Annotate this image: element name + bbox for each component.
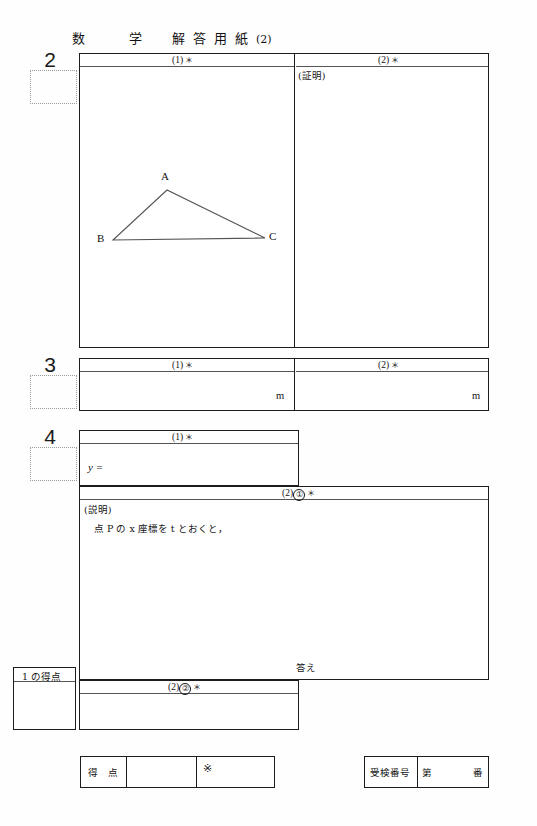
sub-number-icon: ① — [293, 489, 305, 501]
problem-2-1-caption-rule — [80, 66, 294, 67]
problem-1-score-entry[interactable] — [14, 682, 75, 729]
problem-number-4: 4 — [30, 425, 70, 449]
problem-2-section-1-caption: (1) ＊ — [172, 54, 193, 65]
problem-3-2-caption-rule — [296, 371, 488, 372]
official-mark-icon: ※ — [203, 762, 212, 775]
required-mark-icon: ＊ — [391, 56, 399, 65]
triangle-svg — [95, 170, 295, 260]
problem-3-section-1-caption: (1) ＊ — [172, 359, 193, 370]
problem-4-1-caption-rule — [80, 443, 298, 444]
problem-3-1-unit: m — [276, 390, 284, 401]
proof-label: (証明) — [298, 68, 325, 82]
sheet-number: (2) — [256, 33, 272, 46]
problem-3-1-caption-rule — [80, 371, 294, 372]
problem-4-section-2-2-caption: (2)② ＊ — [168, 681, 201, 695]
page-title: 数学解答用紙(2) — [72, 28, 272, 47]
vertex-label-a: A — [161, 170, 169, 182]
problem-number-3: 3 — [30, 353, 70, 377]
total-score-divider-2 — [196, 757, 197, 787]
required-mark-icon: ＊ — [185, 361, 193, 370]
subject-char-1: 数 — [72, 31, 85, 46]
total-score-entry[interactable] — [128, 757, 194, 787]
problem-2-2-caption-rule — [296, 66, 488, 67]
doc-char-3: 用 — [214, 31, 227, 46]
required-mark-icon: ＊ — [185, 433, 193, 442]
problem-3-column-divider — [294, 359, 295, 410]
problem-4-section-2-1-caption: (2)① ＊ — [282, 487, 315, 501]
exam-number-entry[interactable] — [432, 757, 472, 787]
problem-4-section-1-caption: (1) ＊ — [172, 431, 193, 442]
score-entry-box-problem-3[interactable] — [30, 375, 77, 409]
problem-1-score-label: 1 の得点 — [22, 669, 61, 683]
exam-number-label: 受検番号 — [370, 765, 410, 779]
exam-number-suffix: 番 — [473, 765, 483, 779]
required-mark-icon: ＊ — [391, 361, 399, 370]
score-entry-box-problem-4[interactable] — [30, 447, 77, 481]
problem-2-section-2-caption: (2) ＊ — [378, 54, 399, 65]
subject-char-2: 学 — [129, 31, 142, 46]
exam-number-prefix: 第 — [422, 765, 432, 779]
problem-3-2-unit: m — [472, 390, 480, 401]
doc-char-2: 答 — [193, 31, 206, 46]
explanation-starter-text: 点 P の x 座標を t とおくと， — [94, 521, 228, 535]
required-mark-icon: ＊ — [193, 683, 201, 692]
vertex-label-b: B — [97, 232, 104, 244]
triangle-diagram: A B C — [95, 170, 295, 260]
answer-sheet-page: 数学解答用紙(2) 2 (1) ＊ (2) ＊ (証明) A B C 3 (1)… — [0, 0, 537, 826]
required-mark-icon: ＊ — [307, 489, 315, 498]
answer-label: 答え — [296, 660, 316, 674]
problem-4-section-2-1-answer-area — [79, 486, 489, 680]
exam-number-divider — [417, 757, 418, 787]
doc-char-1: 解 — [172, 31, 185, 46]
total-score-label: 得 点 — [88, 765, 118, 779]
problem-3-section-2-caption: (2) ＊ — [378, 359, 399, 370]
explanation-label: (説明) — [84, 502, 111, 516]
required-mark-icon: ＊ — [185, 56, 193, 65]
sub-number-icon: ② — [179, 683, 191, 695]
doc-char-4: 紙 — [235, 31, 248, 46]
problem-4-1-answer-prefix: y = — [88, 461, 103, 473]
score-entry-box-problem-2[interactable] — [30, 70, 77, 104]
vertex-label-c: C — [269, 230, 276, 242]
problem-number-2: 2 — [30, 48, 70, 72]
problem-3-answer-area — [79, 358, 489, 411]
